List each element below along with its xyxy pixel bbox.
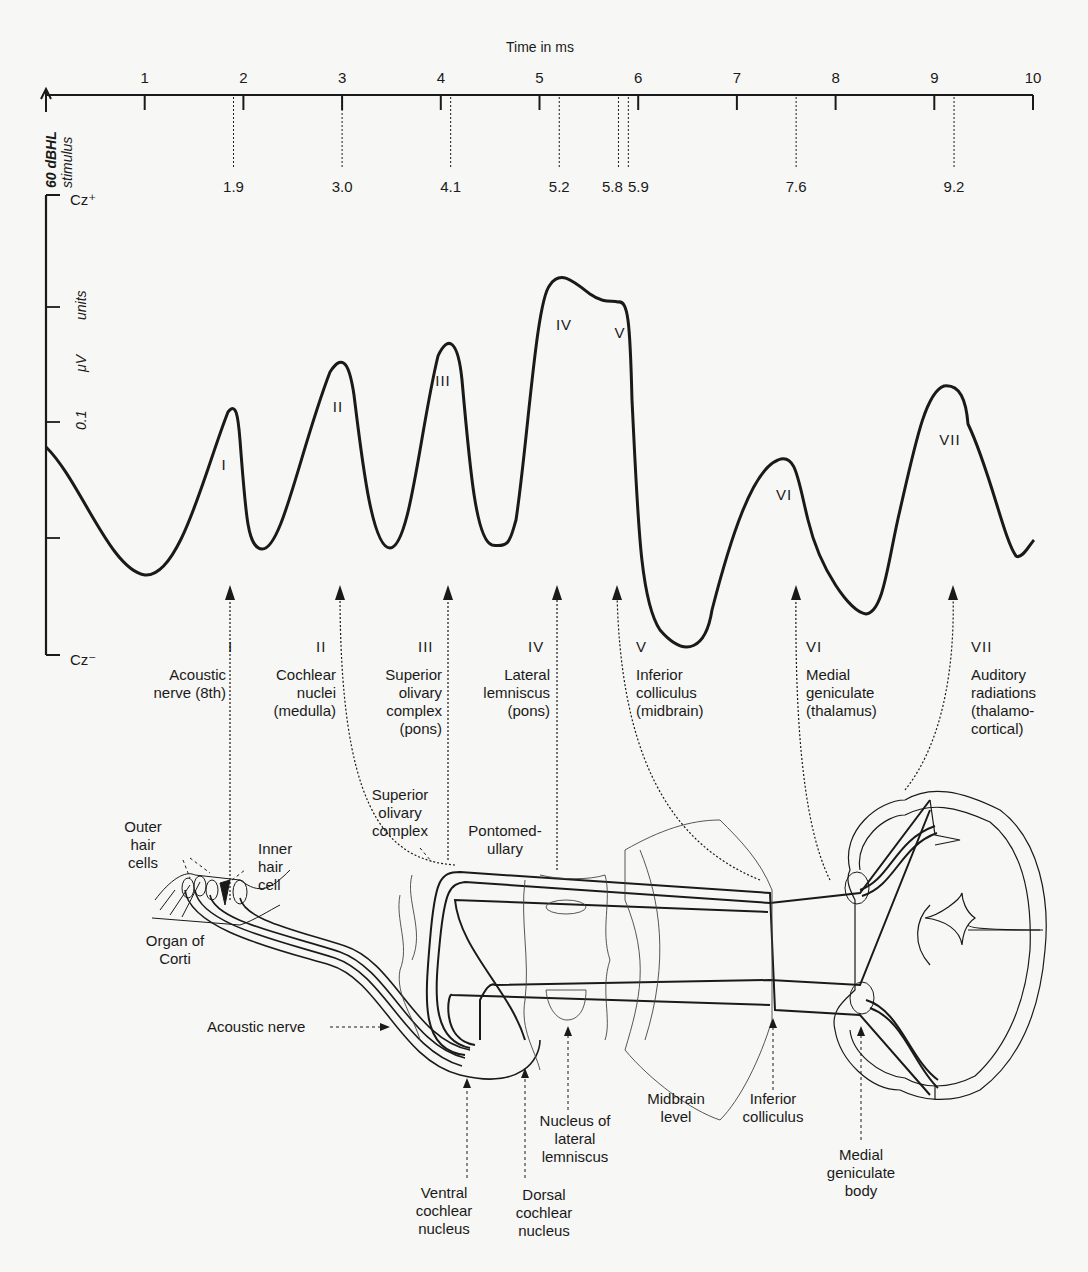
generator-numeral-v: V: [636, 638, 647, 655]
label-acoustic-nerve: Acoustic nerve: [207, 1018, 337, 1036]
cz-negative-label: Cz⁻: [70, 651, 96, 668]
latency-marker-label: 7.6: [786, 178, 807, 195]
latency-marker-label: 5.8: [602, 178, 623, 195]
cortex-illustration: [834, 791, 1046, 1100]
abr-diagram: 12345678910 Time in ms 60 dBHL stimulus …: [0, 0, 1088, 1272]
acoustic-nerve-fibers: [185, 890, 540, 1079]
axis-title: Time in ms: [506, 39, 574, 55]
wave-peak-label: II: [333, 398, 343, 415]
label-inferior-colliculus: Inferior colliculus: [732, 1090, 814, 1126]
label-ventral-cochlear-nucleus: Ventral cochlear nucleus: [408, 1184, 480, 1238]
diagram-canvas: 12345678910 Time in ms 60 dBHL stimulus …: [0, 0, 1088, 1272]
axis-tick-label: 10: [1025, 69, 1042, 86]
generator-label-medial-geniculate: Medial geniculate (thalamus): [806, 666, 916, 720]
generator-numeral-i: I: [228, 638, 233, 655]
latency-marker-label: 3.0: [332, 178, 353, 195]
wave-peak-label: I: [221, 456, 226, 473]
axis-tick-label: 6: [634, 69, 642, 86]
axis-tick-label: 9: [930, 69, 938, 86]
axis-tick-label: 8: [831, 69, 839, 86]
amplitude-axis: Cz⁺ Cz⁻ 0.1 μV units: [46, 191, 96, 668]
label-dorsal-cochlear-nucleus: Dorsal cochlear nucleus: [508, 1186, 580, 1240]
medial-geniculate-lower: [850, 982, 874, 1014]
svg-text:0.1: 0.1: [73, 411, 89, 430]
generator-label-acoustic-nerve: Acoustic nerve (8th): [118, 666, 226, 702]
latency-marker-label: 5.2: [549, 178, 570, 195]
label-pontomedullary: Pontomed- ullary: [455, 822, 555, 858]
generator-arrows: [230, 592, 953, 900]
axis-tick-label: 4: [437, 69, 445, 86]
generator-numeral-ii: II: [316, 638, 326, 655]
latency-marker-label: 9.2: [944, 178, 965, 195]
generator-numeral-vii: VII: [971, 638, 992, 655]
generator-label-inferior-colliculus: Inferior colliculus (midbrain): [636, 666, 746, 720]
latency-marker-label: 4.1: [440, 178, 461, 195]
peak-labels: IIIIIIIVVVIVII: [221, 316, 960, 503]
stimulus-label: stimulus: [59, 137, 75, 188]
generator-numeral-iv: IV: [528, 638, 544, 655]
cz-positive-label: Cz⁺: [70, 191, 96, 208]
svg-text:μV: μV: [73, 353, 89, 373]
generator-label-cochlear-nuclei: Cochlear nuclei (medulla): [240, 666, 336, 720]
time-axis: 12345678910 Time in ms 60 dBHL stimulus: [41, 39, 1041, 188]
stimulus-intensity-label: 60 dBHL: [43, 131, 59, 188]
axis-tick-label: 5: [535, 69, 543, 86]
latency-markers: 1.93.04.15.25.85.97.69.2: [223, 97, 964, 195]
label-superior-olivary-complex: Superior olivary complex: [355, 786, 445, 840]
generator-label-superior-olivary: Superior olivary complex (pons): [340, 666, 442, 738]
wave-peak-label: V: [614, 324, 625, 341]
wave-peak-label: VI: [776, 486, 792, 503]
label-midbrain-level: Midbrain level: [636, 1090, 716, 1126]
svg-text:units: units: [73, 290, 89, 320]
wave-peak-label: IV: [556, 316, 572, 333]
generator-numeral-iii: III: [418, 638, 434, 655]
axis-tick-label: 7: [733, 69, 741, 86]
label-medial-geniculate-body: Medial geniculate body: [820, 1146, 902, 1200]
axis-tick-label: 3: [338, 69, 346, 86]
label-outer-hair-cells: Outer hair cells: [108, 818, 178, 872]
latency-marker-label: 1.9: [223, 178, 244, 195]
generator-label-auditory-radiations: Auditory radiations (thalamo- cortical): [971, 666, 1081, 738]
axis-tick-label: 2: [239, 69, 247, 86]
wave-peak-label: III: [435, 372, 451, 389]
abr-waveform: [46, 278, 1034, 647]
latency-marker-label: 5.9: [628, 178, 649, 195]
arrowhead-icons: [225, 585, 958, 600]
axis-tick-label: 1: [141, 69, 149, 86]
anatomy-pointers: [183, 848, 861, 1178]
label-inner-hair-cell: Inner hair cell: [258, 840, 318, 894]
label-organ-of-corti: Organ of Corti: [130, 932, 220, 968]
generator-label-lateral-lemniscus: Lateral lemniscus (pons): [445, 666, 550, 720]
stimulus-arrow-icon: [41, 89, 51, 112]
wave-peak-label: VII: [939, 431, 960, 448]
label-nucleus-lateral-lemniscus: Nucleus of lateral lemniscus: [530, 1112, 620, 1166]
generator-numeral-vi: VI: [806, 638, 822, 655]
